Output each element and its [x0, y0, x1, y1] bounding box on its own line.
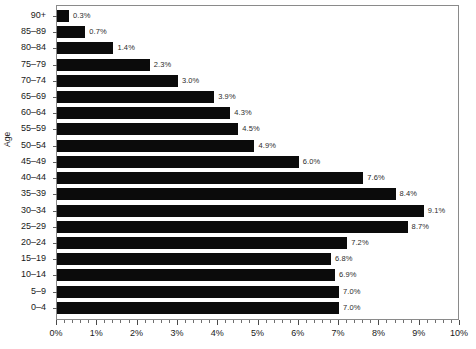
y-tick-mark [53, 32, 57, 33]
y-tick-label: 90+ [0, 9, 46, 21]
x-minor-tick-mark [161, 320, 162, 323]
x-minor-tick-mark [64, 320, 65, 323]
bar [57, 156, 299, 168]
x-minor-tick-mark [322, 320, 323, 323]
bar [57, 205, 424, 217]
x-minor-tick-mark [314, 320, 315, 323]
x-minor-tick-mark [169, 320, 170, 323]
y-tick-label: 80–84 [0, 41, 46, 53]
bar-value-label: 7.0% [343, 285, 361, 298]
bar-value-label: 8.4% [400, 187, 418, 200]
y-tick-mark [53, 81, 57, 82]
y-tick-label: 40–44 [0, 171, 46, 183]
y-tick-label: 10–14 [0, 268, 46, 280]
y-tick-mark [53, 227, 57, 228]
y-tick-label: 65–69 [0, 90, 46, 102]
x-tick-label: 10% [439, 328, 476, 338]
y-tick-mark [53, 65, 57, 66]
bar [57, 221, 408, 233]
x-tick-label: 6% [278, 328, 318, 338]
bar-value-label: 6.8% [335, 252, 353, 265]
x-minor-tick-mark [346, 320, 347, 323]
x-minor-tick-mark [249, 320, 250, 323]
x-minor-tick-mark [290, 320, 291, 323]
x-tick-mark [459, 320, 460, 325]
y-tick-mark [53, 243, 57, 244]
bar [57, 75, 178, 87]
x-tick-mark [177, 320, 178, 325]
bar [57, 10, 69, 22]
bar-value-label: 1.4% [117, 41, 135, 54]
x-minor-tick-mark [282, 320, 283, 323]
bar-value-label: 0.7% [89, 25, 107, 38]
bar-value-label: 9.1% [428, 204, 446, 217]
x-minor-tick-mark [306, 320, 307, 323]
bar [57, 188, 396, 200]
x-minor-tick-mark [386, 320, 387, 323]
x-tick-label: 2% [117, 328, 157, 338]
y-tick-label: 45–49 [0, 155, 46, 167]
x-minor-tick-mark [80, 320, 81, 323]
x-tick-mark [96, 320, 97, 325]
x-minor-tick-mark [411, 320, 412, 323]
bar-value-label: 6.0% [303, 155, 321, 168]
x-minor-tick-mark [185, 320, 186, 323]
x-minor-tick-mark [435, 320, 436, 323]
x-tick-label: 4% [197, 328, 237, 338]
x-tick-label: 1% [76, 328, 116, 338]
y-tick-label: 20–24 [0, 236, 46, 248]
bar [57, 140, 254, 152]
bar-value-label: 3.0% [182, 74, 200, 87]
x-minor-tick-mark [72, 320, 73, 323]
x-minor-tick-mark [145, 320, 146, 323]
x-minor-tick-mark [209, 320, 210, 323]
x-minor-tick-mark [241, 320, 242, 323]
x-tick-mark [56, 320, 57, 325]
x-minor-tick-mark [104, 320, 105, 323]
x-tick-mark [258, 320, 259, 325]
x-minor-tick-mark [153, 320, 154, 323]
bar-value-label: 7.2% [351, 236, 369, 249]
bar-value-label: 4.9% [258, 139, 276, 152]
x-tick-label: 9% [399, 328, 439, 338]
x-minor-tick-mark [112, 320, 113, 323]
y-tick-label: 30–34 [0, 204, 46, 216]
y-tick-mark [53, 178, 57, 179]
y-tick-mark [53, 146, 57, 147]
x-minor-tick-mark [451, 320, 452, 323]
y-tick-mark [53, 292, 57, 293]
x-minor-tick-mark [443, 320, 444, 323]
x-tick-label: 5% [238, 328, 278, 338]
x-axis: 0%1%2%3%4%5%6%7%8%9%10% [56, 320, 459, 349]
x-tick-label: 0% [36, 328, 76, 338]
x-minor-tick-mark [274, 320, 275, 323]
x-tick-label: 3% [157, 328, 197, 338]
y-tick-label: 60–64 [0, 106, 46, 118]
x-tick-mark [137, 320, 138, 325]
bar-value-label: 8.7% [412, 220, 430, 233]
y-tick-mark [53, 194, 57, 195]
x-tick-label: 7% [318, 328, 358, 338]
y-tick-mark [53, 113, 57, 114]
x-minor-tick-mark [330, 320, 331, 323]
population-age-distribution-chart: Age 0.3%0.7%1.4%2.3%3.0%3.9%4.3%4.5%4.9%… [0, 0, 476, 349]
x-minor-tick-mark [354, 320, 355, 323]
x-tick-mark [217, 320, 218, 325]
bar [57, 91, 214, 103]
y-tick-label: 35–39 [0, 187, 46, 199]
bar-value-label: 0.3% [73, 9, 91, 22]
bar [57, 269, 335, 281]
y-tick-mark [53, 211, 57, 212]
bar [57, 302, 339, 314]
bar [57, 26, 85, 38]
x-minor-tick-mark [266, 320, 267, 323]
y-tick-mark [53, 16, 57, 17]
y-tick-label: 15–19 [0, 252, 46, 264]
y-tick-mark [53, 275, 57, 276]
bar-value-label: 2.3% [154, 58, 172, 71]
y-tick-label: 75–79 [0, 58, 46, 70]
y-tick-mark [53, 308, 57, 309]
y-tick-mark [53, 129, 57, 130]
y-tick-label: 0–4 [0, 301, 46, 313]
y-tick-label: 85–89 [0, 25, 46, 37]
